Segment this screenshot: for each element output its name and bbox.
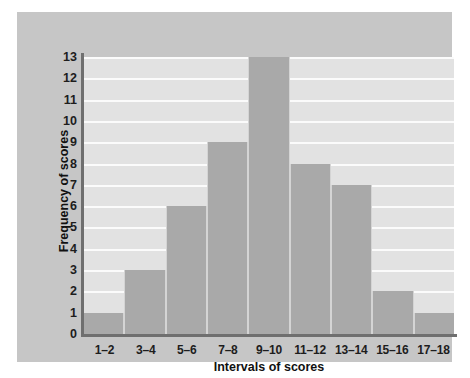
x-axis-tick-labels: 1–23–45–67–89–1011–1213–1415–1617–18 [84, 343, 454, 357]
y-axis-title: Frequency of scores [57, 106, 71, 276]
plot-area [84, 57, 454, 334]
x-tick-label: 11–12 [290, 343, 331, 357]
y-tick-label: 13 [37, 50, 77, 64]
bar [372, 291, 413, 334]
bar [414, 313, 454, 334]
y-tick-label: 2 [37, 284, 77, 298]
y-tick-label: 0 [37, 327, 77, 341]
bar [248, 57, 289, 334]
bar [290, 164, 331, 334]
y-axis-line [81, 53, 84, 337]
x-tick-label: 17–18 [413, 343, 454, 357]
x-tick-label: 5–6 [166, 343, 207, 357]
x-tick-label: 13–14 [331, 343, 372, 357]
x-axis-title: Intervals of scores [84, 360, 454, 374]
y-tick-label: 12 [37, 71, 77, 85]
bar [166, 206, 207, 334]
x-tick-label: 7–8 [207, 343, 248, 357]
y-tick-label: 11 [37, 93, 77, 107]
y-tick-label: 1 [37, 306, 77, 320]
x-tick-label: 1–2 [84, 343, 125, 357]
x-axis-line [81, 334, 457, 337]
bar-series [84, 57, 454, 334]
chart-card: 012345678910111213 1–23–45–67–89–1011–12… [17, 12, 452, 362]
x-tick-label: 9–10 [248, 343, 289, 357]
bar [84, 313, 124, 334]
bar [207, 142, 248, 334]
bar [124, 270, 165, 334]
bar [331, 185, 372, 334]
x-tick-label: 3–4 [125, 343, 166, 357]
x-tick-label: 15–16 [372, 343, 413, 357]
